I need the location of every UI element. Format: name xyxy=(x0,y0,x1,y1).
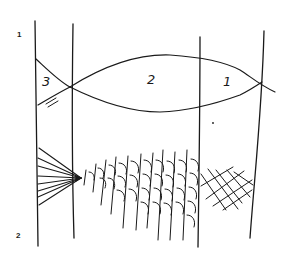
crosshatch-net xyxy=(201,167,253,210)
ray-fan xyxy=(38,148,81,205)
vertical-lines xyxy=(35,21,264,247)
scallop-arcs xyxy=(84,150,199,240)
row-label-1: 1 xyxy=(17,30,22,39)
row-label-2: 2 xyxy=(16,231,21,240)
lens-upper-curve xyxy=(70,55,275,92)
vertical-line-a xyxy=(35,21,38,246)
region-label-2: 2 xyxy=(147,72,155,87)
vertical-line-c xyxy=(198,37,200,247)
vertical-line-b xyxy=(72,24,74,238)
lens-left-lower xyxy=(38,87,70,105)
dot-mark xyxy=(212,122,214,124)
sketch-diagram: 1 2 3 2 1 xyxy=(0,0,287,258)
lens-lower-curve xyxy=(70,82,262,112)
vertical-line-d xyxy=(250,31,264,238)
region-label-3: 3 xyxy=(42,74,50,89)
region-label-1: 1 xyxy=(223,74,231,89)
